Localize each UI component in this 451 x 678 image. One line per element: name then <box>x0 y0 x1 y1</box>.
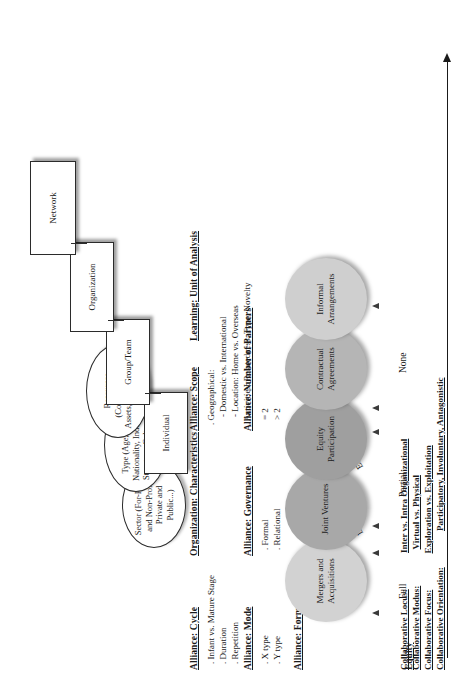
alliance-scope-item-0: . Geographical: <box>205 370 217 425</box>
alliance-partners-item-0: = 2 <box>259 408 271 420</box>
alliance-governance-item-0: . Formal <box>259 520 271 551</box>
collaborative-value-1: Virtual vs. Physical <box>411 475 421 549</box>
learning-unit-label-1: Group/Team <box>123 339 133 384</box>
alliance-mode-item-1: . Y type <box>271 636 283 664</box>
alliance-governance-header: Alliance: Governance <box>243 466 253 556</box>
collaborative-row-1: Collaborative Modus: Virtual vs. Physica… <box>411 475 421 670</box>
alliance-form-circle-0: Mergers and Acquisitions <box>285 540 367 622</box>
collaborative-key-1: Collaborative Modus: <box>411 586 421 670</box>
alliance-form-circle-3: Contractual Agreements <box>285 328 367 410</box>
learning-unit-connector-0 <box>145 393 161 394</box>
alliance-scope-header: Alliance: Scope <box>189 367 199 431</box>
equity-level-none: None <box>398 352 408 373</box>
framework-axis-arrow-head <box>443 53 451 62</box>
collaborative-row-3: Collaborative Orientation: Participatory… <box>435 377 445 670</box>
collaborative-key-3: Collaborative Orientation: <box>435 567 445 670</box>
alliance-form-label-3: Contractual Agreements <box>315 328 338 410</box>
collaborative-key-2: Collaborative Focus: <box>423 590 433 670</box>
equity-bracket-none <box>372 305 394 409</box>
alliance-form-circle-2: Equity Participation <box>285 398 367 480</box>
alliance-governance-item-1: . Relational <box>271 509 283 551</box>
learning-unit-box-3: Network <box>30 161 76 255</box>
equity-bracket-full <box>372 552 394 614</box>
alliance-partners-item-1: > 2 <box>271 408 283 420</box>
alliance-cycle-item-1: . Duration <box>217 628 229 665</box>
collaborative-value-2: Exploration vs. Exploitation <box>423 445 433 553</box>
alliance-form-label-0: Mergers and Acquisitions <box>315 540 338 622</box>
learning-unit-label-2: Organization <box>87 264 97 311</box>
alliance-form-header: Alliance: Form <box>293 607 303 670</box>
learning-unit-box-0: Individual <box>144 392 188 474</box>
alliance-scope-item-3: . Activities: Relatedness, Type, Novelty <box>241 283 253 425</box>
learning-unit-header: Learning: Unit of Analysis <box>189 231 199 341</box>
alliance-form-circle-4: Informal Arrangements <box>285 258 367 340</box>
alliance-scope-item-2: - Location: Home vs. Overseas <box>229 305 241 417</box>
collaborative-value-3: Participatory, Involuntary, Antagonistic <box>435 377 445 531</box>
collaborative-row-0: Collaborative Locus: Inter vs. Intra Org… <box>399 439 409 670</box>
alliance-scope-item-1: - Domestic vs. International <box>217 317 229 417</box>
framework-axis-arrow-line <box>447 60 448 658</box>
collaborative-row-2: Collaborative Focus: Exploration vs. Exp… <box>423 445 433 670</box>
alliance-cycle-item-0: . Infant vs. Mature Stage <box>205 575 217 664</box>
collaborative-value-0: Inter vs. Intra Organizational <box>399 439 409 553</box>
learning-unit-connector-1 <box>108 320 124 321</box>
alliance-cycle-item-2: . Repetition <box>229 622 241 664</box>
alliance-cycle-header: Alliance: Cycle <box>189 607 199 670</box>
alliance-form-label-1: Joint Ventures <box>320 477 332 540</box>
equity-bracket-partial <box>372 431 394 527</box>
alliance-form-circle-1: Joint Ventures <box>285 468 367 550</box>
learning-unit-box-2: Organization <box>70 242 114 332</box>
alliance-form-label-4: Informal Arrangements <box>315 258 338 340</box>
organization-characteristics-header: Organization: Characteristics <box>189 432 199 556</box>
alliance-mode-header: Alliance: Mode <box>243 607 253 670</box>
learning-unit-label-0: Individual <box>161 415 171 452</box>
learning-unit-connector-2 <box>71 243 87 244</box>
alliance-mode-item-0: . X type <box>259 635 271 664</box>
collaborative-key-0: Collaborative Locus: <box>399 589 409 670</box>
alliance-form-label-2: Equity Participation <box>315 398 338 480</box>
learning-unit-label-3: Network <box>48 192 58 224</box>
